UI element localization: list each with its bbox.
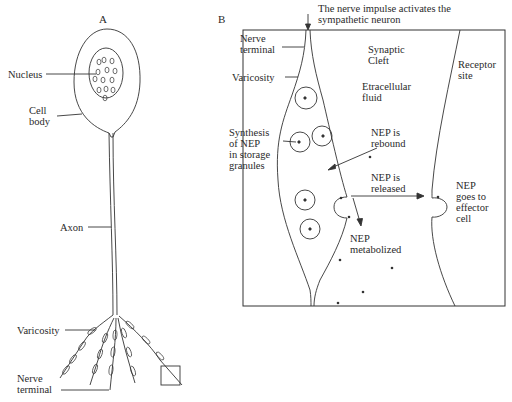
cell-body-shape: [74, 29, 140, 137]
receptor-membrane: [432, 30, 460, 306]
nep-released-label: NEP is released: [371, 172, 405, 194]
enlargement-box: [161, 366, 180, 385]
nep-metabolized-label: NEP metabolized: [350, 233, 401, 255]
neuron-diagram: [0, 0, 512, 402]
synthesis-label: Synthesis of NEP in storage granules: [229, 127, 270, 171]
terminal-right-membrane: [310, 30, 347, 306]
axon-shape: [109, 133, 113, 315]
nerve-terminal-label-b: Nerve terminal: [240, 33, 275, 55]
panel-b-title: B: [218, 14, 225, 25]
extracellular-fluid-label: Etracellular fluid: [362, 81, 411, 103]
axon-branches: [60, 315, 182, 390]
synaptic-cleft-label: Synaptic Cleft: [368, 44, 405, 66]
panel-a-neuron: [46, 29, 182, 390]
nerve-terminal-label-a: Nerve terminal: [17, 373, 52, 395]
varicosity-label-b: Varicosity: [232, 72, 275, 83]
varicosity-label-a: Varicosity: [17, 325, 60, 336]
panel-a-title: A: [99, 14, 107, 25]
terminal-left-membrane: [277, 30, 311, 306]
nep-effector-label: NEP goes to effector cell: [456, 180, 488, 224]
nucleus-shape: [89, 48, 123, 98]
nucleus-label: Nucleus: [8, 69, 42, 80]
receptor-site-label: Receptor site: [458, 59, 496, 81]
nep-rebound-label: NEP is rebound: [371, 127, 405, 149]
cell-body-label: Cell body: [29, 105, 50, 127]
nerve-impulse-caption: The nerve impulse activates the sympathe…: [318, 3, 451, 25]
axon-label: Axon: [60, 222, 83, 233]
